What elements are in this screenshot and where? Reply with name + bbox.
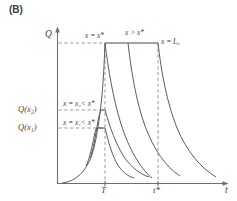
decay-curve-L0 [158,43,216,177]
rising-curve-x1 [86,128,97,166]
curve-label-level1: x = x₁< x* [63,119,95,126]
y-tick-label-qx1: Q(x₁) [18,123,37,132]
rising-curve-main [62,43,105,183]
x-tick-label-tstar: t* [153,186,160,195]
y-axis-arrowhead [55,27,60,33]
curve-label-above: x > x* [125,29,144,36]
x-axis-title: t [225,186,228,196]
curve-label-max: x = L₀ [161,38,180,45]
decay-curve-above-xstar [128,43,180,176]
curve-label-peak: x = x* [85,32,104,39]
decay-curve-x2 [105,110,149,177]
y-axis-title: Q [45,30,52,40]
curve-label-level2: x = x₂< x* [63,100,95,107]
x-tick-label-T: T [101,186,106,195]
decay-curve-x1 [105,128,134,178]
plot-canvas [0,0,237,201]
decay-curve-xstar [105,43,152,178]
figure-panel-b: (B) [0,0,237,201]
y-tick-label-qx2: Q(x₂) [18,105,37,114]
